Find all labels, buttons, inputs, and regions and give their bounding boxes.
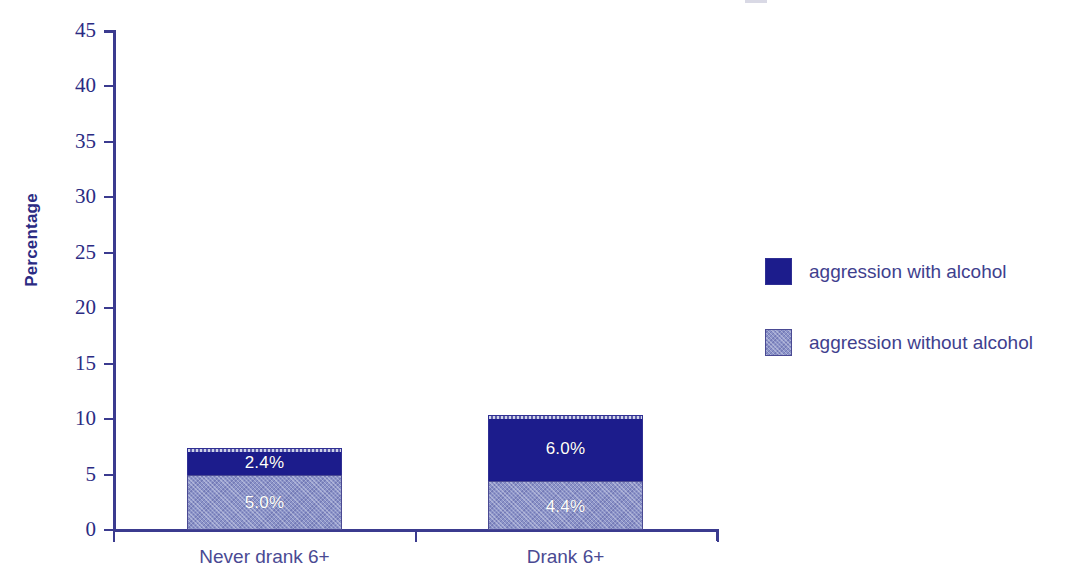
y-tick-label-15: 15 xyxy=(38,353,96,374)
y-tick-20 xyxy=(104,307,115,309)
y-tick-label-10: 10 xyxy=(38,408,96,429)
y-tick-15 xyxy=(104,363,115,365)
y-tick-label-35: 35 xyxy=(38,131,96,152)
y-tick-label-20: 20 xyxy=(38,297,96,318)
bar-top-hatch-2 xyxy=(488,415,643,419)
bar-segment-value-label: 4.4% xyxy=(546,497,586,517)
bar-segment-value-label: 6.0% xyxy=(546,439,586,459)
y-tick-5 xyxy=(104,474,115,476)
legend-label-without-alcohol: aggression without alcohol xyxy=(809,332,1033,354)
legend-swatch-with-alcohol xyxy=(765,258,792,285)
bar-top-hatch-1 xyxy=(187,448,342,452)
y-tick-25 xyxy=(104,252,115,254)
bar-segment-2-1[interactable]: 4.4% xyxy=(488,481,643,530)
y-tick-45 xyxy=(104,30,115,32)
y-tick-label-40: 40 xyxy=(38,75,96,96)
y-tick-30 xyxy=(104,196,115,198)
bar-segment-2-2[interactable]: 6.0% xyxy=(488,415,643,482)
legend-swatch-without-alcohol xyxy=(765,329,792,356)
y-tick-10 xyxy=(104,418,115,420)
bar-segment-1-1[interactable]: 5.0% xyxy=(187,475,342,530)
legend-item-without-alcohol[interactable]: aggression without alcohol xyxy=(765,329,1033,356)
x-tick-middle xyxy=(415,531,417,542)
legend-item-with-alcohol[interactable]: aggression with alcohol xyxy=(765,258,1033,285)
y-tick-label-45: 45 xyxy=(38,20,96,41)
y-tick-40 xyxy=(104,85,115,87)
y-axis-line xyxy=(113,30,116,532)
x-tick-right xyxy=(717,531,719,542)
y-tick-label-5: 5 xyxy=(38,464,96,485)
stacked-bar-chart: Percentage 051015202530354045 Never dran… xyxy=(0,0,1065,587)
scan-artifact xyxy=(745,0,767,3)
chart-legend: aggression with alcohol aggression witho… xyxy=(765,258,1033,400)
x-tick-label-drank: Drank 6+ xyxy=(488,546,643,568)
y-tick-label-30: 30 xyxy=(38,186,96,207)
bar-segment-value-label: 5.0% xyxy=(245,493,285,513)
legend-label-with-alcohol: aggression with alcohol xyxy=(809,261,1007,283)
y-tick-label-25: 25 xyxy=(38,242,96,263)
y-tick-35 xyxy=(104,141,115,143)
x-tick-label-never-drank: Never drank 6+ xyxy=(187,546,342,568)
x-tick-left xyxy=(113,531,115,542)
bar-segment-value-label: 2.4% xyxy=(245,453,285,473)
y-tick-label-0: 0 xyxy=(38,519,96,540)
